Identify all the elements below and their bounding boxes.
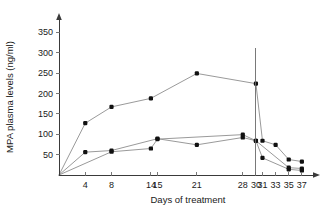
- data-point: [287, 157, 291, 161]
- chart-figure: 5010015020025030035048141521283031333537…: [0, 0, 328, 215]
- y-tick-label: 100: [38, 129, 53, 139]
- data-point: [300, 166, 304, 170]
- y-tick-label: 350: [38, 27, 53, 37]
- series-line-patient-1: [59, 73, 302, 175]
- data-point: [149, 146, 153, 150]
- data-point: [83, 121, 87, 125]
- y-tick-label: 250: [38, 68, 53, 78]
- x-tick-label: 21: [192, 180, 202, 190]
- x-axis-arrow-icon: [313, 172, 320, 178]
- data-point: [109, 150, 113, 154]
- y-tick-label: 150: [38, 109, 53, 119]
- data-point: [195, 71, 199, 75]
- data-point: [260, 139, 264, 143]
- x-tick-label: 28: [238, 180, 248, 190]
- data-point: [300, 159, 304, 163]
- data-point: [195, 143, 199, 147]
- x-tick-label: 31: [257, 180, 267, 190]
- x-tick-label: 33: [271, 180, 281, 190]
- x-axis-title: Days of treatment: [151, 194, 226, 205]
- x-tick-label: 35: [284, 180, 294, 190]
- data-point: [109, 105, 113, 109]
- data-point: [83, 150, 87, 154]
- series-line-patient-2: [59, 137, 302, 175]
- axes-layer: [56, 13, 320, 178]
- series-line-patient-3: [59, 135, 302, 175]
- y-axis-title: MPA plasma levels (ng/ml): [4, 41, 15, 153]
- y-tick-label: 50: [43, 150, 53, 160]
- x-tick-label: 4: [83, 180, 88, 190]
- data-point: [260, 156, 264, 160]
- tick-labels-layer: 5010015020025030035048141521283031333537: [38, 27, 307, 190]
- data-point: [155, 137, 159, 141]
- tick-marks-layer: [56, 32, 302, 176]
- chart-canvas: 5010015020025030035048141521283031333537…: [0, 0, 328, 215]
- series-layer: [59, 73, 302, 175]
- x-tick-label: 37: [297, 180, 307, 190]
- data-point: [241, 133, 245, 137]
- x-tick-label: 8: [109, 180, 114, 190]
- x-tick-label: 15: [152, 180, 162, 190]
- data-points-layer: [83, 71, 304, 172]
- data-point: [149, 96, 153, 100]
- y-tick-label: 200: [38, 89, 53, 99]
- y-axis-arrow-icon: [56, 13, 62, 20]
- data-point: [274, 143, 278, 147]
- y-tick-label: 300: [38, 48, 53, 58]
- data-point: [287, 166, 291, 170]
